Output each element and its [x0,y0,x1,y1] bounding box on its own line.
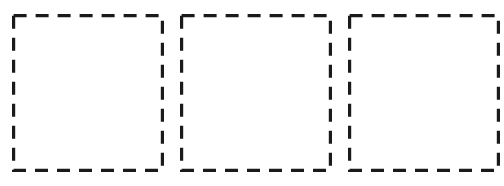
panel-c-dashed-border [350,16,499,171]
panel-b-plot [180,14,332,172]
panel-a-dashed-border [14,16,163,171]
panel-c [348,14,500,172]
figure-vector-field-panels [0,0,504,186]
panel-b [180,14,332,172]
panel-a [12,14,164,172]
panel-b-dashed-border [182,16,331,171]
panel-a-plot [12,14,164,172]
panel-c-plot [348,14,500,172]
